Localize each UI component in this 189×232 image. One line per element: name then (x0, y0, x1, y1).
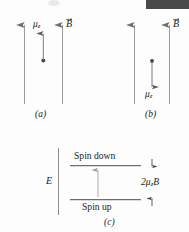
panel-c-splitting-B: B (153, 176, 159, 187)
panel-a-B-field-label: B (66, 19, 72, 29)
figure-vector-graphics (0, 0, 189, 232)
panel-b-B-field-label: B (173, 19, 179, 29)
panel-a-mu-z-label: μz (33, 20, 40, 30)
physics-figure-spin-magnetic-moment: μz B (a) μz B (b) E Spin down Spin up 2μ… (0, 0, 189, 232)
panel-c-spin-down-label: Spin down (74, 151, 115, 161)
panel-c-caption: (c) (104, 218, 115, 228)
panel-b-mu-z-label: μz (145, 90, 152, 100)
panel-b-caption: (b) (145, 110, 156, 120)
panel-a-vector-arrow-accent-icon (66, 17, 72, 21)
panel-c-spin-up-label: Spin up (82, 202, 112, 212)
panel-c-energy-splitting-label: 2μzB (141, 177, 159, 188)
panel-a-caption: (a) (35, 110, 46, 120)
panel-a-group (25, 25, 63, 104)
panel-b-vector-arrow-accent-icon (173, 17, 179, 21)
panel-b-mu-subscript: z (150, 92, 153, 99)
panel-c-energy-axis-label: E (46, 176, 52, 186)
panel-a-mu-subscript: z (38, 22, 41, 29)
